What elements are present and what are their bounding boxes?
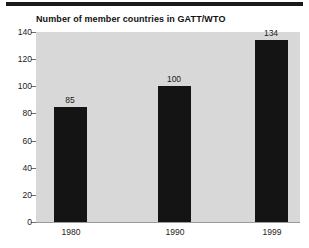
x-axis-label-1999: 1999 (245, 227, 299, 237)
y-axis-label-140: 140 (6, 27, 32, 37)
x-axis-label-1980: 1980 (44, 227, 98, 237)
y-axis-label-40: 40 (6, 163, 32, 173)
bar-value-1990: 100 (152, 74, 196, 84)
bar-value-1999: 134 (249, 28, 293, 38)
y-axis-label-0: 0 (6, 217, 32, 227)
y-axis-label-120: 120 (6, 54, 32, 64)
y-axis-label-80: 80 (6, 108, 32, 118)
x-axis-label-1990: 1990 (148, 227, 202, 237)
bar-1980 (54, 107, 87, 222)
y-axis-label-100: 100 (6, 81, 32, 91)
chart-figure: Number of member countries in GATT/WTO 1… (0, 0, 309, 248)
x-axis-baseline (36, 222, 300, 223)
bar-1990 (158, 86, 191, 222)
y-axis-label-20: 20 (6, 190, 32, 200)
y-axis-label-60: 60 (6, 136, 32, 146)
chart-title: Number of member countries in GATT/WTO (36, 14, 225, 24)
bar-1999 (255, 40, 288, 222)
bar-value-1980: 85 (48, 95, 92, 105)
header-rule (6, 2, 303, 6)
